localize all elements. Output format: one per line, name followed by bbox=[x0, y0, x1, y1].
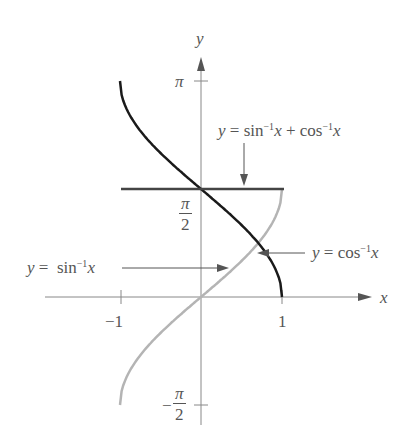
annotation-sum: y = sin−1x + cos−1x bbox=[218, 122, 341, 139]
y-tick-label-pi: π bbox=[175, 73, 184, 90]
chart-canvas bbox=[0, 0, 418, 437]
annotation-arcsin: y = sin−1x bbox=[27, 259, 95, 276]
x-tick-label-neg1: −1 bbox=[105, 313, 123, 330]
arcsin-arrow-head-icon bbox=[217, 264, 229, 272]
x-axis-label: x bbox=[380, 289, 388, 306]
y-axis-label: y bbox=[196, 30, 204, 47]
x-axis-arrow-icon bbox=[358, 293, 372, 301]
neg-sign: − bbox=[162, 397, 172, 414]
x-tick-label-pos1: 1 bbox=[278, 313, 287, 330]
annotation-arccos: y = cos−1x bbox=[312, 244, 378, 261]
y-axis-arrow-icon bbox=[197, 57, 205, 71]
sum-arrow-head-icon bbox=[240, 174, 248, 186]
y-tick-label-neg-pi-half: π 2 bbox=[173, 385, 186, 423]
y-tick-label-pi-half: π 2 bbox=[179, 195, 192, 233]
